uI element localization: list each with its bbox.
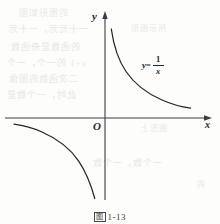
caption-mark-glyph: 图 bbox=[94, 212, 106, 222]
fraction: 1 x bbox=[153, 55, 164, 75]
y-axis-label: y bbox=[92, 11, 97, 22]
fraction-denominator: x bbox=[154, 66, 162, 76]
y-axis bbox=[102, 11, 107, 200]
hyperbola-branch-negative bbox=[14, 124, 95, 198]
curve-equation-label: y= 1 x bbox=[142, 55, 164, 75]
caption-number: 1-13 bbox=[108, 212, 127, 222]
hyperbola-plot bbox=[0, 0, 220, 224]
fraction-numerator: 1 bbox=[154, 55, 162, 65]
x-axis bbox=[5, 115, 212, 120]
figure-caption: 图1-13 bbox=[0, 212, 220, 222]
origin-label: O bbox=[93, 121, 101, 132]
figure-page: 的图形如图一十元元，一十元所示图形的函数是奇函数x+1 的一个，一个二次函数的图… bbox=[0, 0, 220, 224]
y-axis-arrowhead bbox=[102, 11, 107, 19]
x-axis-label: x bbox=[205, 120, 210, 130]
equation-left-hand-side: y= bbox=[142, 60, 151, 70]
